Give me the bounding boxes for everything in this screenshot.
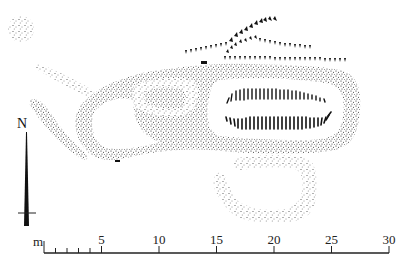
- scale-bar: m 5 10 15 20 25 30: [33, 232, 396, 253]
- scale-tick-label: 10: [153, 232, 166, 247]
- hachured-hollow: [226, 89, 331, 129]
- main-bank: [75, 61, 360, 162]
- hollow-south-edge: [226, 112, 331, 129]
- scale-tick-label: 20: [268, 232, 281, 247]
- scarp-middle: [226, 35, 311, 53]
- scale-tick-label: 30: [383, 232, 396, 247]
- scale-tick-label: 25: [325, 232, 338, 247]
- north-arrow: N: [17, 116, 36, 226]
- scale-tick-label: 5: [98, 232, 105, 247]
- north-arrow-shaft: [24, 132, 29, 226]
- scarp-fringe-west: [185, 42, 227, 54]
- south-enclosure: [213, 155, 316, 223]
- scale-tick-label: 15: [210, 232, 223, 247]
- north-scarps: [185, 16, 346, 62]
- north-label: N: [17, 116, 27, 131]
- scarp-upper: [229, 16, 277, 42]
- scarp-lower: [224, 56, 346, 62]
- site-plan: N m 5 10 15 20 25 30: [0, 0, 408, 268]
- mound-feature: [8, 16, 34, 42]
- hollow-north-edge: [227, 89, 325, 103]
- scale-unit: m: [33, 234, 43, 249]
